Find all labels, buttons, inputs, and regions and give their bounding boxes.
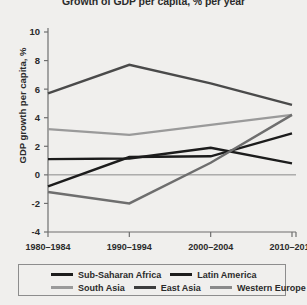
chart-legend: Sub-Saharan Africa Latin America South A… bbox=[18, 264, 286, 296]
y-tick-label: 2 bbox=[35, 141, 40, 152]
legend-item-western-europe[interactable]: Western Europe bbox=[210, 283, 307, 293]
y-tick-label: 4 bbox=[35, 112, 41, 123]
legend-label: Western Europe bbox=[237, 283, 306, 293]
series-lines bbox=[48, 65, 292, 204]
legend-item-east-asia[interactable]: East Asia bbox=[134, 283, 210, 293]
legend-row: South Asia East Asia Western Europe bbox=[23, 281, 281, 294]
legend-item-latin-america[interactable]: Latin America bbox=[170, 270, 265, 280]
legend-label: East Asia bbox=[161, 283, 201, 293]
legend-label: Latin America bbox=[197, 270, 256, 280]
series-line bbox=[48, 115, 292, 135]
y-axis-ticks: -4-20246810 bbox=[29, 26, 48, 237]
legend-swatch-icon bbox=[170, 273, 192, 277]
legend-item-sub-saharan-africa[interactable]: Sub-Saharan Africa bbox=[51, 270, 170, 280]
legend-row: Sub-Saharan Africa Latin America bbox=[23, 268, 281, 281]
legend-item-south-asia[interactable]: South Asia bbox=[51, 283, 134, 293]
y-tick-label: 10 bbox=[29, 26, 40, 37]
plot-area: -4-20246810 1980–19841990–19942000–20042… bbox=[0, 0, 307, 262]
legend-swatch-icon bbox=[51, 286, 73, 289]
y-tick-label: 0 bbox=[35, 169, 40, 180]
y-tick-label: 6 bbox=[35, 84, 40, 95]
x-tick-label: 1990–1994 bbox=[107, 242, 152, 252]
legend-label: Sub-Saharan Africa bbox=[78, 270, 161, 280]
x-tick-label: 2010–2012 bbox=[269, 242, 307, 252]
x-axis-ticks: 1980–19841990–19942000–20042010–2012 bbox=[25, 232, 307, 252]
series-line bbox=[48, 65, 292, 105]
x-tick-label: 1980–1984 bbox=[25, 242, 70, 252]
y-tick-label: 8 bbox=[35, 55, 40, 66]
x-tick-label: 2000–2004 bbox=[188, 242, 233, 252]
legend-label: South Asia bbox=[78, 283, 125, 293]
y-tick-label: -2 bbox=[32, 198, 40, 209]
gdp-growth-chart: Growth of GDP per capita, % per year GDP… bbox=[0, 0, 307, 305]
legend-swatch-icon bbox=[134, 286, 156, 290]
legend-swatch-icon bbox=[51, 273, 73, 277]
legend-swatch-icon bbox=[210, 286, 232, 290]
y-tick-label: -4 bbox=[32, 226, 41, 237]
